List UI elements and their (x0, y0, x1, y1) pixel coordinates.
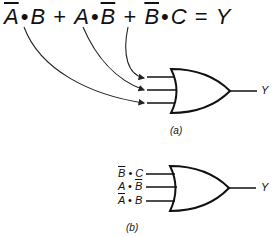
input-label-b1: B • C (118, 167, 143, 179)
output-label-a: Y (261, 84, 268, 96)
connector-arrows (24, 27, 144, 103)
input-label-b3: A • B (118, 194, 142, 206)
arrow-term3 (126, 27, 144, 78)
output-label-b: Y (261, 181, 268, 193)
or-gate-b (146, 166, 256, 211)
or-gate-a (147, 69, 257, 113)
input-label-b2: A • B (118, 180, 142, 192)
caption-b: (b) (126, 222, 138, 233)
caption-a: (a) (170, 125, 182, 136)
arrow-term2 (83, 27, 144, 90)
